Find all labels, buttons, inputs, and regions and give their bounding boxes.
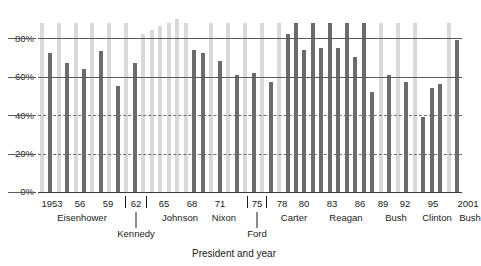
- x-tick-label-68: 68: [187, 198, 198, 209]
- group-label-nixon: Nixon: [212, 212, 236, 223]
- y-tick-rule: [8, 115, 36, 116]
- group-label-eisenhower: Eisenhower: [57, 212, 107, 223]
- gridline-20: [38, 154, 462, 155]
- group-label-ford: Ford: [247, 228, 267, 239]
- y-tick-rule: [8, 154, 36, 155]
- ford-leader: [257, 212, 258, 228]
- group-label-kennedy: Kennedy: [117, 228, 155, 239]
- x-tick-label-89: 89: [378, 198, 389, 209]
- x-tick-label-2001: 2001: [457, 198, 478, 209]
- gridline-80: [38, 38, 462, 39]
- x-tick-label-65: 65: [159, 198, 170, 209]
- y-tick-rule: [8, 77, 36, 78]
- x-tick-label-78: 78: [277, 198, 288, 209]
- group-label-clinton: Clinton: [422, 212, 452, 223]
- plot-area: [38, 14, 462, 192]
- x-tick-label-95: 95: [428, 198, 439, 209]
- y-tick-rule: [8, 38, 36, 39]
- x-tick-label-86: 86: [355, 198, 366, 209]
- x-tick-label-80: 80: [299, 198, 310, 209]
- group-label-johnson: Johnson: [162, 212, 198, 223]
- group-label-bush41: Bush: [385, 212, 407, 223]
- group-label-carter: Carter: [281, 212, 307, 223]
- gridline-40: [38, 115, 462, 116]
- gridline-60: [38, 77, 462, 78]
- x-tick-label-1953: 1953: [41, 198, 62, 209]
- group-label-reagan: Reagan: [329, 212, 362, 223]
- kennedy-bracket: [125, 196, 147, 208]
- x-tick-label-59: 59: [103, 198, 114, 209]
- x-tick-label-83: 83: [327, 198, 338, 209]
- ford-bracket: [247, 196, 267, 208]
- x-axis-title: President and year: [0, 248, 468, 259]
- gridlines: [38, 14, 462, 192]
- kennedy-leader: [136, 212, 137, 228]
- y-tick-rule: [8, 192, 36, 193]
- x-tick-label-56: 56: [75, 198, 86, 209]
- group-label-bush43: Bush: [459, 212, 481, 223]
- x-tick-label-92: 92: [400, 198, 411, 209]
- x-axis-title-text: President and year: [192, 248, 276, 259]
- x-tick-label-71: 71: [215, 198, 226, 209]
